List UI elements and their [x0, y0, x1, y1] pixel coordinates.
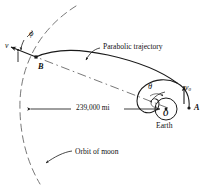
point-a-label: A [194, 104, 199, 112]
point-a-marker [187, 106, 190, 109]
distance-label: 239,000 mi [76, 104, 110, 111]
earth-label: Earth [156, 122, 172, 130]
parabolic-trajectory-label: Parabolic trajectory [103, 43, 163, 51]
theta-angle-label: θ [148, 83, 152, 91]
velocity-v0-subscript: 0 [188, 87, 190, 92]
point-b-label: B [38, 63, 43, 71]
velocity-v0-label: v0 [185, 84, 191, 93]
parabolic-label-leader [86, 48, 100, 60]
orbit-of-moon-label: Orbit of moon [75, 148, 118, 156]
orbit-label-leader [46, 151, 72, 163]
earth-center-label: O [163, 110, 168, 117]
point-b-marker [34, 55, 37, 58]
velocity-v-label: v [5, 42, 8, 50]
phi-angle-label: ϕ [29, 29, 33, 38]
